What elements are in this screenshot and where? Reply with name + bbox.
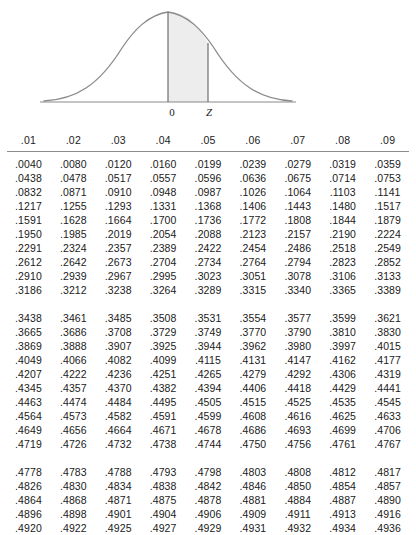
table-cell: .0279: [275, 158, 320, 170]
table-block: .4778.4783.4788.4793.4798.4803.4808.4812…: [0, 465, 416, 535]
table-cell: .4761: [320, 438, 365, 450]
table-cell: .3708: [96, 326, 141, 338]
table-cell: .3599: [320, 312, 365, 324]
table-cell: .4049: [6, 354, 51, 366]
table-cell: .4842: [186, 480, 231, 492]
table-cell: .4573: [51, 410, 96, 422]
table-cell: .2995: [141, 270, 186, 282]
table-cell: .1879: [365, 214, 410, 226]
table-cell: .3531: [186, 312, 231, 324]
table-row: .4649.4656.4664.4671.4678.4686.4693.4699…: [6, 423, 410, 437]
table-cell: .2190: [320, 228, 365, 240]
table-cell: .3238: [96, 284, 141, 296]
table-cell: .4099: [141, 354, 186, 366]
table-cell: .4838: [141, 480, 186, 492]
table-cell: .3830: [365, 326, 410, 338]
table-cell: .4082: [96, 354, 141, 366]
table-row: .3665.3686.3708.3729.3749.3770.3790.3810…: [6, 325, 410, 339]
table-cell: .3944: [186, 340, 231, 352]
table-cell: .4671: [141, 424, 186, 436]
table-cell: .4265: [186, 368, 231, 380]
table-cell: .0753: [365, 172, 410, 184]
table-cell: .4564: [6, 410, 51, 422]
table-row: .0438.0478.0517.0557.0596.0636.0675.0714…: [6, 171, 410, 185]
table-row: .1217.1255.1293.1331.1368.1406.1443.1480…: [6, 199, 410, 213]
table-cell: .4649: [6, 424, 51, 436]
table-cell: .3264: [141, 284, 186, 296]
table-row: .4826.4830.4834.4838.4842.4846.4850.4854…: [6, 479, 410, 493]
table-cell: .4798: [186, 466, 231, 478]
table-row: .1950.1985.2019.2054.2088.2123.2157.2190…: [6, 227, 410, 241]
table-cell: .4207: [6, 368, 51, 380]
table-cell: .4881: [230, 494, 275, 506]
table-cell: .4750: [230, 438, 275, 450]
table-cell: .4345: [6, 382, 51, 394]
table-cell: .4868: [51, 494, 96, 506]
table-cell: .3554: [230, 312, 275, 324]
table-cell: .2823: [320, 256, 365, 268]
table-cell: .2291: [6, 242, 51, 254]
table-cell: .4656: [51, 424, 96, 436]
table-cell: .3461: [51, 312, 96, 324]
table-cell: .3907: [96, 340, 141, 352]
table-cell: .4441: [365, 382, 410, 394]
table-cell: .4871: [96, 494, 141, 506]
column-header: .06: [230, 134, 275, 146]
table-cell: .4484: [96, 396, 141, 408]
table-cell: .3577: [275, 312, 320, 324]
table-cell: .4633: [365, 410, 410, 422]
table-cell: .4932: [275, 522, 320, 534]
shaded-area-0-to-z: [168, 12, 208, 102]
column-header: .01: [6, 134, 51, 146]
table-cell: .4812: [320, 466, 365, 478]
table-cell: .1985: [51, 228, 96, 240]
table-cell: .4834: [96, 480, 141, 492]
table-cell: .3810: [320, 326, 365, 338]
table-cell: .4817: [365, 466, 410, 478]
table-cell: .4664: [96, 424, 141, 436]
table-row: .0040.0080.0120.0160.0199.0239.0279.0319…: [6, 157, 410, 171]
table-cell: .4015: [365, 340, 410, 352]
table-cell: .0910: [96, 186, 141, 198]
table-block: .0040.0080.0120.0160.0199.0239.0279.0319…: [0, 152, 416, 297]
table-cell: .2794: [275, 256, 320, 268]
table-cell: .4929: [186, 522, 231, 534]
column-header: .04: [141, 134, 186, 146]
table-cell: .1664: [96, 214, 141, 226]
table-cell: .2357: [96, 242, 141, 254]
table-cell: .3686: [51, 326, 96, 338]
table-cell: .1700: [141, 214, 186, 226]
table-cell: .4783: [51, 466, 96, 478]
table-cell: .4599: [186, 410, 231, 422]
table-cell: .2734: [186, 256, 231, 268]
table-cell: .3023: [186, 270, 231, 282]
table-cell: .2704: [141, 256, 186, 268]
table-cell: .4826: [6, 480, 51, 492]
table-cell: .1628: [51, 214, 96, 226]
table-cell: .2157: [275, 228, 320, 240]
table-row: .4719.4726.4732.4738.4744.4750.4756.4761…: [6, 437, 410, 451]
table-cell: .4931: [230, 522, 275, 534]
table-cell: .3770: [230, 326, 275, 338]
table-cell: .1026: [230, 186, 275, 198]
table-cell: .2852: [365, 256, 410, 268]
table-cell: .4319: [365, 368, 410, 380]
table-cell: .4916: [365, 508, 410, 520]
table-cell: .4147: [275, 354, 320, 366]
table-cell: .3438: [6, 312, 51, 324]
table-cell: .4767: [365, 438, 410, 450]
table-cell: .1141: [365, 186, 410, 198]
table-cell: .3389: [365, 284, 410, 296]
table-cell: .4911: [275, 508, 320, 520]
table-cell: .4884: [275, 494, 320, 506]
table-cell: .1808: [275, 214, 320, 226]
table-cell: .3888: [51, 340, 96, 352]
table-cell: .4699: [320, 424, 365, 436]
table-cell: .4066: [51, 354, 96, 366]
table-cell: .1217: [6, 200, 51, 212]
table-cell: .3485: [96, 312, 141, 324]
table-cell: .4732: [96, 438, 141, 450]
table-cell: .4898: [51, 508, 96, 520]
table-cell: .4934: [320, 522, 365, 534]
table-cell: .0438: [6, 172, 51, 184]
